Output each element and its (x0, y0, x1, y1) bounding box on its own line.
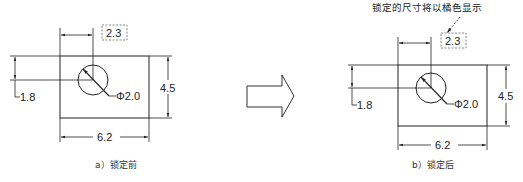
dim-text-2-3[interactable]: 2.3 (106, 27, 121, 39)
dim-text-1-8[interactable]: 1.8 (20, 91, 35, 103)
part-outline (398, 65, 487, 126)
dim-text-2-3[interactable]: 2.3 (445, 35, 460, 47)
caption-b: b）锁定后 (412, 159, 454, 170)
transition-arrow-icon (247, 75, 294, 117)
dim-text-4-5[interactable]: 4.5 (160, 82, 175, 94)
caption-a: a）锁定前 (95, 159, 137, 170)
diameter-leader (83, 69, 109, 96)
dim-text-6-2[interactable]: 6.2 (435, 139, 450, 151)
part-outline (60, 56, 149, 118)
locked-dimension-note: 锁定的尺寸将以橘色显示 (372, 2, 482, 13)
diagram-canvas: 2.3 1.8 4.5 6.2 Φ2.0 a）锁定前 锁定的尺寸将以橘色显示 (0, 0, 523, 182)
figure-a: 2.3 1.8 4.5 6.2 Φ2.0 a）锁定前 (10, 25, 175, 170)
dim-text-6-2[interactable]: 6.2 (97, 131, 112, 143)
note-pointer-arrow (447, 17, 460, 33)
dim-text-1-8[interactable]: 1.8 (357, 99, 372, 111)
dim-text-4-5[interactable]: 4.5 (498, 90, 513, 102)
figure-b: 锁定的尺寸将以橘色显示 2.3 1.8 4.5 6.2 Φ2.0 b）锁定后 (348, 2, 513, 170)
dim-text-diameter[interactable]: Φ2.0 (454, 98, 478, 110)
diameter-leader (421, 77, 447, 104)
dim-text-diameter[interactable]: Φ2.0 (116, 90, 140, 102)
